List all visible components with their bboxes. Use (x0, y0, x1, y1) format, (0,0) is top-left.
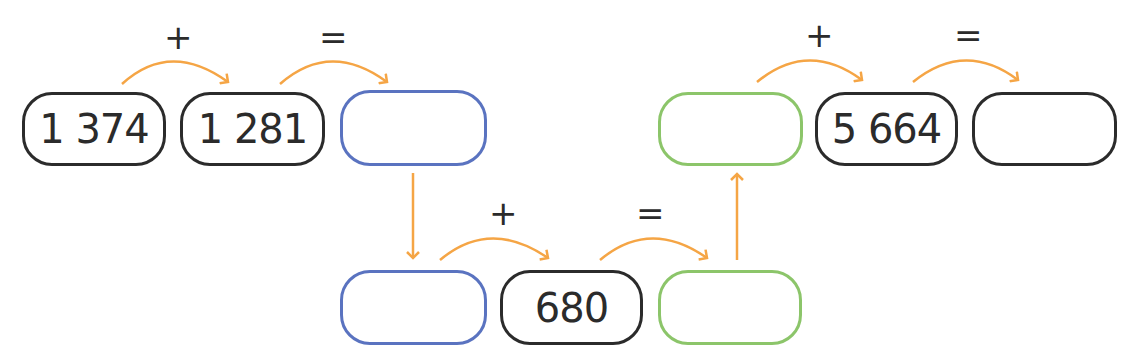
plus-sign: + (805, 18, 834, 52)
operand-box-1: 1 374 (22, 92, 166, 166)
operand-box-2: 1 281 (180, 92, 325, 166)
arc-arrow-plus-2 (440, 238, 548, 260)
arc-arrow-equals-3 (913, 60, 1018, 82)
operand-box-4: 5 664 (815, 92, 958, 166)
arc-arrow-equals-1 (280, 61, 387, 84)
arc-arrow-plus-3 (757, 60, 862, 82)
equals-sign: = (954, 18, 983, 52)
answer-box-4[interactable] (658, 92, 803, 166)
answer-box-2[interactable] (340, 270, 487, 345)
operand-box-3: 680 (500, 270, 643, 345)
equals-sign: = (319, 20, 348, 54)
arc-arrow-plus-1 (122, 61, 228, 84)
answer-box-5[interactable] (972, 92, 1117, 166)
equals-sign: = (636, 196, 665, 230)
answer-box-1[interactable] (340, 90, 487, 166)
plus-sign: + (489, 196, 518, 230)
arc-arrow-equals-2 (600, 238, 707, 260)
answer-box-3[interactable] (658, 270, 802, 345)
plus-sign: + (164, 20, 193, 54)
